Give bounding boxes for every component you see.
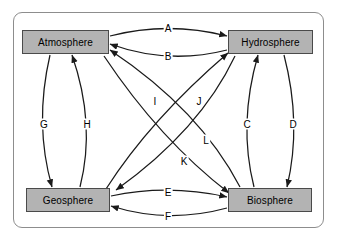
edge-L — [110, 50, 240, 187]
edge-label-K: K — [180, 156, 189, 167]
node-geosphere-label: Geosphere — [43, 195, 93, 206]
edge-label-C: C — [242, 119, 251, 130]
edge-I — [106, 53, 228, 189]
edge-label-G: G — [39, 119, 49, 130]
node-geosphere[interactable]: Geosphere — [26, 188, 110, 212]
node-biosphere[interactable]: Biosphere — [228, 188, 312, 212]
edge-K — [104, 56, 229, 193]
edge-label-A: A — [164, 23, 173, 34]
edge-label-L: L — [202, 135, 210, 146]
node-biosphere-label: Biosphere — [247, 195, 293, 206]
edge-label-H: H — [82, 119, 91, 130]
node-hydrosphere-label: Hydrosphere — [241, 37, 299, 48]
edge-label-J: J — [196, 96, 203, 107]
edge-label-D: D — [288, 119, 297, 130]
edge-label-F: F — [164, 211, 172, 222]
edge-label-E: E — [164, 187, 173, 198]
edge-J — [116, 56, 235, 190]
node-atmosphere[interactable]: Atmosphere — [22, 30, 109, 54]
edge-label-B: B — [164, 51, 173, 62]
node-hydrosphere[interactable]: Hydrosphere — [228, 30, 313, 54]
node-atmosphere-label: Atmosphere — [38, 37, 93, 48]
edge-label-I: I — [153, 96, 158, 107]
diagram-canvas: Atmosphere Hydrosphere Geosphere Biosphe… — [0, 0, 337, 244]
